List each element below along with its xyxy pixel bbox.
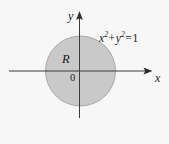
region-label-R: R [62,53,70,66]
equation-value: 1 [132,32,138,44]
figure-container: y x R 0 x2+y2=1 [0,0,169,144]
x-axis-label: x [155,72,160,84]
equation-plus-operator: + [108,32,116,44]
origin-label: 0 [70,73,75,84]
coordinate-plane-diagram [0,0,169,144]
y-axis-label: y [68,10,73,22]
circle-equation-label: x2+y2=1 [99,31,138,44]
